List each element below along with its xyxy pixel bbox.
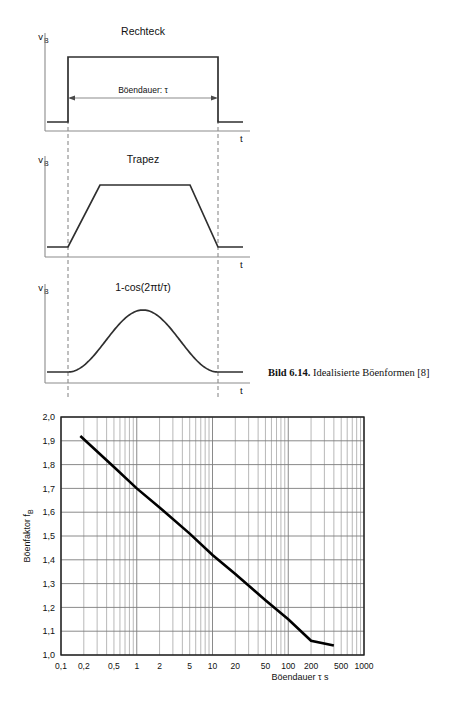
figure-caption-label: Bild 6.14.	[268, 367, 310, 378]
chart-y-tick-label: 1,4	[42, 555, 55, 565]
gust-duration-arrow-right-head	[211, 96, 218, 101]
gust-shapes-svg: v B t Rechteck Böendauer: τ v	[0, 0, 470, 400]
panel1-y-axis-label: v	[38, 31, 43, 42]
chart-x-tick-label: 10	[208, 661, 218, 671]
figure-caption: Bild 6.14. Idealisierte Böenformen [8]	[268, 366, 468, 379]
gust-duration-arrow-left-head	[68, 96, 75, 101]
gust-duration-label: Böendauer: τ	[118, 85, 168, 95]
panel1-title: Rechteck	[121, 25, 166, 37]
figure-page: v B t Rechteck Böendauer: τ v	[0, 0, 470, 701]
panel2-title: Trapez	[127, 153, 159, 165]
gust-factor-curve	[80, 436, 334, 645]
chart-x-tick-label: 200	[304, 661, 318, 671]
panel2-y-axis-label: v	[38, 154, 43, 165]
chart-x-tick-labels: 0,10,20,51251020501002005001000	[55, 661, 374, 671]
chart-y-axis-title-group: Böenfaktor fB	[22, 509, 34, 563]
gust-factor-chart: 0,10,20,51251020501002005001000 1,01,11,…	[0, 395, 470, 701]
panel3-title: 1-cos(2πt/τ)	[115, 281, 171, 293]
chart-y-tick-label: 1,0	[42, 650, 55, 660]
chart-x-tick-label: 0,2	[78, 661, 90, 671]
gust-shapes-figure: v B t Rechteck Böendauer: τ v	[0, 0, 470, 400]
chart-y-tick-labels: 1,01,11,21,31,41,51,61,71,81,92,0	[42, 412, 55, 660]
panel2-x-axis-label: t	[240, 259, 243, 270]
gust-factor-chart-svg: 0,10,20,51251020501002005001000 1,01,11,…	[0, 395, 470, 701]
chart-y-tick-label: 1,3	[42, 579, 55, 589]
chart-y-tick-label: 1,9	[42, 436, 55, 446]
chart-x-tick-label: 1	[134, 661, 139, 671]
chart-y-tick-label: 1,8	[42, 460, 55, 470]
chart-x-tick-label: 0,1	[55, 661, 67, 671]
chart-y-tick-label: 1,1	[42, 626, 55, 636]
chart-y-tick-label: 1,7	[42, 484, 55, 494]
panel1-x-axis-label: t	[240, 133, 243, 144]
chart-x-tick-label: 5	[187, 661, 192, 671]
chart-x-tick-label: 500	[334, 661, 348, 671]
chart-y-tick-label: 1,5	[42, 531, 55, 541]
chart-x-tick-label: 2	[157, 661, 162, 671]
trapezoidal-gust-waveform	[47, 185, 243, 247]
chart-x-axis-title: Böendauer τ s	[271, 672, 329, 682]
chart-y-tick-label: 1,2	[42, 603, 55, 613]
panel-rechteck: v B t Rechteck Böendauer: τ	[38, 25, 250, 144]
cosine-gust-waveform	[47, 310, 243, 372]
chart-x-tick-label: 0,5	[108, 661, 120, 671]
chart-y-tick-label: 2,0	[42, 412, 55, 422]
chart-y-axis-title: Böenfaktor fB	[22, 509, 34, 563]
chart-x-tick-label: 100	[281, 661, 295, 671]
panel3-y-axis-label: v	[38, 282, 43, 293]
figure-caption-text: Idealisierte Böenformen [8]	[313, 367, 430, 378]
chart-x-tick-label: 20	[231, 661, 241, 671]
gust-duration-dimension: Böendauer: τ	[68, 85, 218, 100]
chart-x-tick-label: 50	[261, 661, 271, 671]
chart-x-tick-label: 1000	[355, 661, 374, 671]
chart-y-tick-label: 1,6	[42, 507, 55, 517]
